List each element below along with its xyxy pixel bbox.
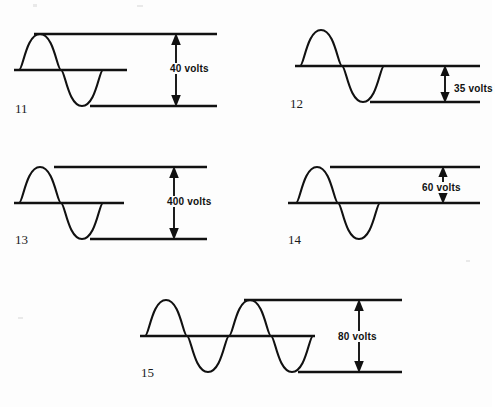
- figure-12-volt-label: 35 volts: [452, 83, 495, 94]
- figure-12-number: 12: [290, 96, 303, 112]
- figure-14-drawing: [288, 153, 482, 249]
- figure-15-volt-label: 80 volts: [336, 331, 379, 342]
- scan-speck: [466, 260, 470, 262]
- figure-11-volt-label: 40 volts: [168, 63, 211, 74]
- figure-11-number: 11: [15, 101, 28, 117]
- figure-13-number: 13: [15, 232, 28, 248]
- figure-14-number: 14: [288, 232, 301, 248]
- figure-12-drawing: [290, 18, 482, 112]
- figure-14-volt-label: 60 volts: [420, 182, 463, 193]
- scan-speck: [137, 5, 143, 7]
- figure-13-volt-label: 400 volts: [165, 196, 214, 207]
- scan-speck: [33, 4, 37, 7]
- figure-15-number: 15: [141, 365, 154, 381]
- scan-speck: [18, 317, 23, 319]
